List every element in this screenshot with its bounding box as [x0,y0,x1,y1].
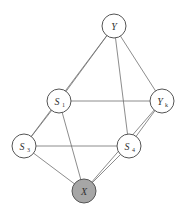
edge-y-s4 [114,26,129,146]
node-subscript: 1 [62,102,65,108]
node-label: S [55,96,60,107]
node-subscript: 3 [27,147,30,153]
node-subscript: 4 [132,147,135,153]
node-label: S [20,141,25,152]
node-s4: S4 [117,134,141,158]
node-subscript: k [165,102,168,108]
nodes-layer: YS1YkS3S4X [12,14,174,203]
node-label: X [80,186,88,197]
node-y: Y [102,14,126,38]
node-x: X [72,179,96,203]
node-yk: Yk [150,89,174,113]
edges-layer [24,26,162,191]
edge-y-yk [114,26,162,101]
node-label: S [125,141,130,152]
node-s1: S1 [47,89,71,113]
node-s3: S3 [12,134,36,158]
graph-diagram: YS1YkS3S4X [0,0,184,216]
